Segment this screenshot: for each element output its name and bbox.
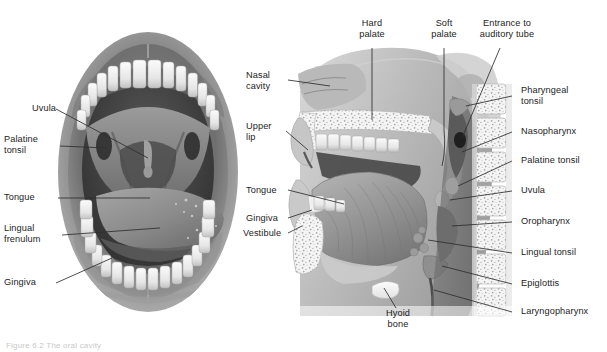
label-palatine-tonsil-left: Palatine tonsil: [4, 134, 64, 155]
label-gingiva-left: Gingiva: [4, 277, 60, 288]
sagittal-section-illustration: [289, 48, 520, 352]
auditory-tube-entrance-art: [454, 132, 466, 148]
label-palatine-tonsil-right: Palatine tonsil: [521, 155, 607, 166]
label-lingual-frenulum-left: Lingual frenulum: [4, 223, 66, 244]
label-entrance-auditory-tube: Entrance to auditory tube: [472, 18, 542, 39]
figure-caption: Figure 6.2 The oral cavity: [6, 341, 101, 350]
label-nasopharynx: Nasopharynx: [521, 126, 605, 137]
label-oropharynx: Oropharynx: [521, 216, 601, 227]
label-hard-palate: Hard palate: [348, 18, 396, 39]
label-lingual-tonsil: Lingual tonsil: [521, 247, 603, 258]
palatine-tonsil-sagittal-art: [445, 177, 459, 195]
label-epiglottis: Epiglottis: [521, 278, 593, 289]
label-soft-palate: Soft palate: [420, 18, 468, 39]
label-hyoid-bone: Hyoid bone: [376, 308, 420, 329]
label-uvula-left: Uvula: [2, 103, 56, 114]
label-uvula-right: Uvula: [521, 185, 591, 196]
figure-artwork: [0, 0, 607, 352]
label-gingiva-right: Gingiva: [246, 213, 292, 224]
label-upper-lip: Upper lip: [246, 121, 290, 142]
label-tongue-right: Tongue: [246, 185, 292, 196]
label-nasal-cavity: Nasal cavity: [246, 70, 292, 91]
anatomy-figure: Uvula Palatine tonsil Tongue Lingual fre…: [0, 0, 607, 352]
oral-cavity-anterior-illustration: [56, 32, 238, 312]
label-vestibule: Vestibule: [243, 228, 293, 239]
label-laryngopharynx: Laryngopharynx: [521, 306, 607, 317]
label-tongue-left: Tongue: [4, 192, 60, 203]
label-pharyngeal-tonsil: Pharyngeal tonsil: [521, 85, 603, 106]
